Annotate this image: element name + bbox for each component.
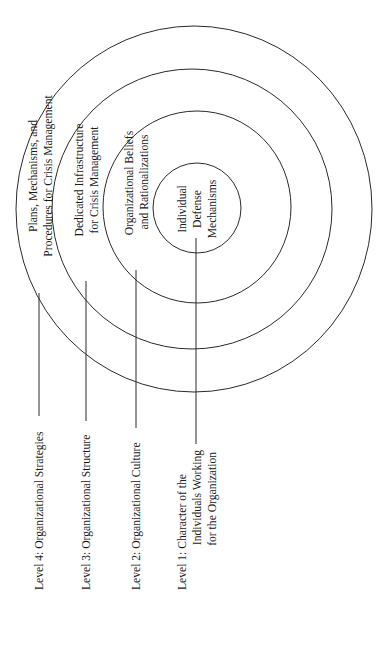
ring-text-level-1-line-3: Mechanisms <box>206 179 219 238</box>
ring-text-level-3-line-2: for Crisis Management <box>88 126 101 234</box>
ring-text-level-1-line-1: Individual <box>176 185 189 233</box>
label-level-1-line-3: for the Organization <box>206 452 219 546</box>
label-level-1-line-1: Level 1: Character of the <box>176 474 189 590</box>
ring-text-level-3-line-1: Dedicated Infrastructure <box>73 124 86 237</box>
ring-text-level-4-line-2: Procedures for Crisis Management <box>42 95 55 257</box>
ring-text-level-1-line-2: Defense <box>191 190 204 228</box>
label-level-2: Level 2: Organizational Culture <box>130 442 143 590</box>
ring-text-level-2-line-2: and Rationalizations <box>138 134 151 229</box>
label-level-1: Level 1: Character of the Individuals Wo… <box>176 450 219 590</box>
ring-text-level-1: Individual Defense Mechanisms <box>176 179 219 238</box>
ring-text-level-4: Plans, Mechanisms, and Procedures for Cr… <box>27 95 55 257</box>
label-level-4: Level 4: Organizational Strategies <box>33 431 46 590</box>
ring-text-level-3: Dedicated Infrastructure for Crisis Mana… <box>73 124 101 237</box>
onion-diagram: Plans, Mechanisms, and Procedures for Cr… <box>0 0 387 645</box>
ring-text-level-2: Organizational Beliefs and Rationalizati… <box>123 130 151 235</box>
ring-text-level-4-line-1: Plans, Mechanisms, and <box>27 120 40 232</box>
ring-text-level-2-line-1: Organizational Beliefs <box>123 130 136 235</box>
label-level-3: Level 3: Organizational Structure <box>80 435 93 590</box>
label-level-1-line-2: Individuals Working <box>191 450 204 545</box>
